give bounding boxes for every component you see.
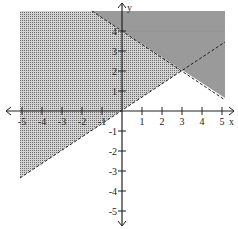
x-tick-label: 1 (140, 116, 145, 127)
x-tick-label: 4 (200, 116, 205, 127)
y-tick-label: -1 (109, 126, 117, 137)
x-tick-label: -5 (18, 116, 26, 127)
x-tick-label: 3 (180, 116, 185, 127)
x-tick-label: -4 (38, 116, 46, 127)
y-tick-label: -4 (109, 186, 117, 197)
y-axis-label: y (127, 2, 132, 13)
x-axis-label: x (229, 116, 234, 127)
x-tick-label: 2 (160, 116, 165, 127)
y-tick-label: 1 (112, 86, 117, 97)
y-tick-label: -2 (109, 146, 117, 157)
x-tick-label: -2 (78, 116, 86, 127)
inequality-graph: -5-4-3-2-112345 4321-1-2-3-4-5 x y (0, 0, 238, 229)
y-tick-label: 2 (112, 66, 117, 77)
y-tick-label: -5 (109, 206, 117, 217)
y-tick-label: -3 (109, 166, 117, 177)
x-tick-label: -1 (98, 116, 106, 127)
y-tick-label: 4 (112, 26, 117, 37)
y-tick-label: 3 (112, 46, 117, 57)
x-tick-label: -3 (58, 116, 66, 127)
x-tick-label: 5 (220, 116, 225, 127)
